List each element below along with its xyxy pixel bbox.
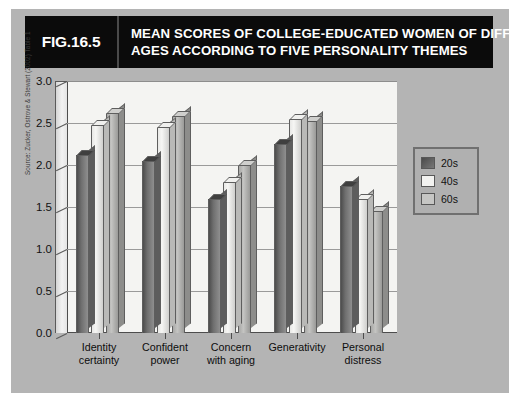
chart-legend: 20s 40s 60s (413, 147, 479, 215)
bar-side-face (236, 172, 242, 328)
bar-side-face (317, 112, 323, 328)
x-axis-tick-mark (363, 333, 364, 339)
bar-side-face (104, 115, 110, 328)
y-axis-tick-label: 1.5 (36, 201, 52, 213)
bar-front-face (274, 144, 287, 333)
y-axis-tick-label: 0.5 (36, 285, 52, 297)
y-axis-tick-mark (56, 333, 67, 339)
bar-side-face (368, 189, 374, 328)
bar-group (76, 81, 119, 333)
bar-front-face (340, 186, 353, 333)
bar-group (274, 81, 317, 333)
bar (274, 144, 287, 333)
bar-group (142, 81, 185, 333)
bar-side-face (287, 134, 293, 328)
bars-layer (67, 81, 397, 333)
bar-side-face (119, 103, 125, 328)
bar-side-face (89, 145, 95, 328)
x-axis-category-label: Personaldistress (323, 341, 403, 367)
x-axis-tick-mark (231, 333, 232, 339)
legend-label-60s: 60s (441, 193, 458, 205)
x-axis-tick-mark (165, 333, 166, 339)
bar-side-face (155, 151, 161, 328)
x-axis-label-line: distress (323, 354, 403, 367)
figure-title-cell: MEAN SCORES OF COLLEGE-EDUCATED WOMEN OF… (119, 16, 512, 68)
figure-panel: FIG.16.5 MEAN SCORES OF COLLEGE-EDUCATED… (8, 6, 512, 396)
y-axis-tick-label: 2.0 (36, 159, 52, 171)
y-axis-tick-label: 0.0 (36, 327, 52, 339)
bar-side-face (185, 107, 191, 328)
y-axis-tick-label: 3.0 (36, 75, 52, 87)
bar-side-face (251, 155, 257, 328)
bar-side-face (302, 109, 308, 328)
bar-front-face (208, 199, 221, 333)
legend-label-40s: 40s (441, 175, 458, 187)
bar-group (340, 81, 383, 333)
figure-title-line-2: AGES ACCORDING TO FIVE PERSONALITY THEME… (131, 42, 512, 59)
figure-title-line-1: MEAN SCORES OF COLLEGE-EDUCATED WOMEN OF… (131, 25, 512, 42)
bar-side-face (383, 202, 389, 328)
bar-group (208, 81, 251, 333)
chart-area: Source: Zucker, Ostrove & Stewart (2002)… (25, 77, 493, 383)
y-axis-tick-label: 2.5 (36, 117, 52, 129)
bar-side-face (353, 176, 359, 328)
bar-front-face (142, 161, 155, 333)
bar (208, 199, 221, 333)
bar-front-face (76, 155, 89, 333)
figure-number-cell: FIG.16.5 (25, 16, 119, 68)
legend-item-60s: 60s (421, 190, 472, 208)
bar-side-face (221, 189, 227, 328)
x-axis-label-line: Personal (323, 341, 403, 354)
plot-frame: 0.00.51.01.52.02.53.0 (67, 81, 397, 333)
legend-swatch-20s-icon (421, 157, 435, 169)
bar (340, 186, 353, 333)
y-axis-tick-label: 1.0 (36, 243, 52, 255)
bar-side-face (170, 118, 176, 328)
figure-root: FIG.16.5 MEAN SCORES OF COLLEGE-EDUCATED… (0, 0, 520, 404)
x-axis-label-line: with aging (191, 354, 271, 367)
legend-item-20s: 20s (421, 154, 472, 172)
legend-label-20s: 20s (441, 157, 458, 169)
figure-number: FIG.16.5 (42, 33, 101, 51)
x-axis-tick-mark (99, 333, 100, 339)
figure-header-band: FIG.16.5 MEAN SCORES OF COLLEGE-EDUCATED… (25, 16, 493, 68)
legend-item-40s: 40s (421, 172, 472, 190)
x-axis-tick-mark (297, 333, 298, 339)
legend-swatch-40s-icon (421, 175, 435, 187)
x-axis-category-labels: IdentitycertaintyConfidentpowerConcernwi… (67, 339, 397, 381)
bar (142, 161, 155, 333)
legend-swatch-60s-icon (421, 193, 435, 205)
bar (76, 155, 89, 333)
